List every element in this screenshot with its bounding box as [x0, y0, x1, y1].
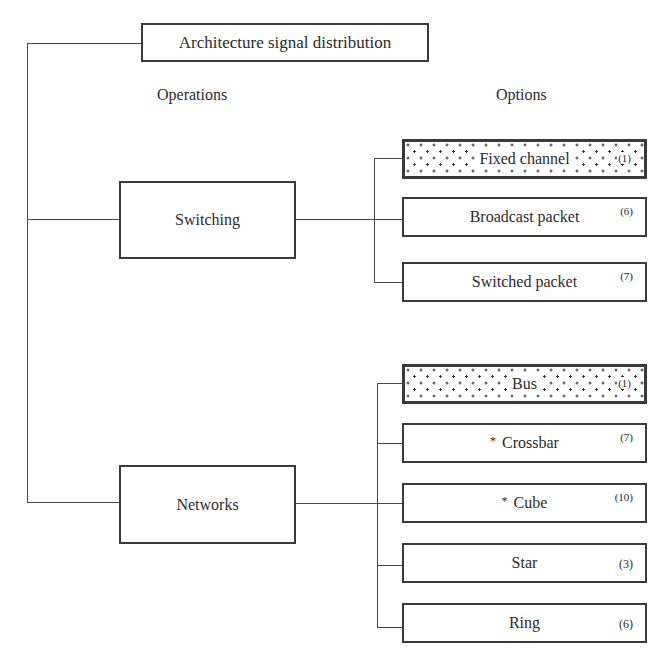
option-count: (7)	[620, 431, 633, 443]
networks-option-stub	[377, 443, 402, 444]
option-label: Switched packet	[472, 273, 577, 290]
option-label: Crossbar	[502, 434, 559, 451]
option-count: (7)	[620, 270, 633, 282]
switching-options-connector	[295, 219, 402, 220]
operation-networks: Networks	[119, 465, 296, 544]
switching-option-stub	[374, 282, 402, 283]
networks-option-stub	[377, 565, 402, 566]
option-label: Broadcast packet	[470, 208, 580, 225]
networks-options-bus	[377, 383, 378, 628]
option-star: Star (3)	[402, 543, 647, 583]
option-broadcast-packet: Broadcast packet (6)	[402, 197, 647, 237]
option-label: Cube	[514, 494, 548, 511]
option-count: (6)	[620, 205, 633, 217]
option-label: Star	[512, 554, 538, 571]
title-box: Architecture signal distribution	[141, 23, 429, 62]
operation-switching: Switching	[119, 181, 296, 259]
option-count: (3)	[619, 557, 633, 572]
options-heading: Options	[496, 86, 547, 104]
asterisk-marker-icon: *	[490, 434, 496, 448]
networks-option-stub	[377, 627, 402, 628]
networks-option-stub	[377, 383, 402, 384]
option-fixed-channel: Fixed channel (1)	[402, 139, 647, 179]
operation-label: Switching	[175, 211, 240, 229]
option-count: (1)	[617, 152, 632, 164]
main-trunk	[27, 43, 28, 503]
asterisk-marker-icon: *	[502, 494, 508, 508]
title-connector	[27, 43, 142, 44]
option-label: Fixed channel	[476, 150, 572, 167]
networks-connector	[27, 502, 120, 503]
option-label: Ring	[509, 614, 540, 631]
option-label: Bus	[509, 375, 540, 392]
networks-options-connector	[295, 503, 402, 504]
operation-label: Networks	[176, 496, 238, 514]
diagram-title: Architecture signal distribution	[179, 33, 391, 53]
switching-option-stub	[374, 158, 402, 159]
option-crossbar: *Crossbar (7)	[402, 423, 647, 463]
option-count: (1)	[617, 377, 632, 389]
option-cube: *Cube (10)	[402, 483, 647, 523]
option-ring: Ring (6)	[402, 603, 647, 643]
switching-options-bus	[374, 158, 375, 283]
option-count: (6)	[619, 617, 633, 632]
switching-connector	[27, 219, 120, 220]
option-bus: Bus (1)	[402, 364, 647, 404]
option-switched-packet: Switched packet (7)	[402, 262, 647, 302]
operations-heading: Operations	[157, 86, 227, 104]
option-count: (10)	[615, 491, 633, 503]
